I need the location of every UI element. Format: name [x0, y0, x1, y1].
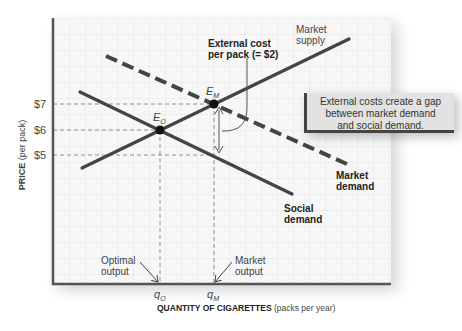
x-axis-label-unit: (packs per year) [272, 303, 336, 313]
social-demand-label: Social demand [284, 203, 322, 225]
callout-line-1: External costs create a gap [307, 96, 454, 108]
x-axis-label: QUANTITY OF CIGARETTES (packs per year) [157, 303, 335, 313]
callout-line-2: between market demand [307, 108, 454, 120]
y-tick-7: $7 [34, 98, 46, 110]
y-tick-5: $5 [34, 149, 46, 161]
external-cost-line1: External cost [208, 38, 278, 49]
market-supply-label-2: supply [296, 35, 327, 46]
y-axis-label-unit: (per pack) [17, 120, 27, 163]
market-output-label-2: output [235, 266, 266, 277]
y-axis-label-bold: PRICE [17, 163, 27, 191]
market-demand-label-1: Market [336, 170, 374, 181]
optimal-output-label-1: Optimal [101, 255, 135, 266]
social-demand-label-2: demand [284, 214, 322, 225]
market-output-label: Market output [235, 255, 266, 277]
optimal-output-label-2: output [101, 266, 135, 277]
optimal-output-label: Optimal output [101, 255, 135, 277]
eq-label-em: EM [206, 86, 219, 101]
market-demand-label-2: demand [336, 181, 374, 192]
callout-line-3: and social demand. [307, 120, 454, 132]
market-supply-label: Market supply [296, 24, 327, 46]
eq-label-eo: EO [153, 112, 166, 127]
market-supply-label-1: Market [296, 24, 327, 35]
market-demand-label: Market demand [336, 170, 374, 192]
social-demand-label-1: Social [284, 203, 322, 214]
market-output-label-1: Market [235, 255, 266, 266]
y-tick-6: $6 [34, 124, 46, 136]
callout-box: External costs create a gap between mark… [304, 93, 454, 133]
x-tick-qo: qO [154, 289, 166, 304]
x-axis-label-bold: QUANTITY OF CIGARETTES [157, 303, 272, 313]
external-cost-line2: per pack (= $2) [208, 49, 278, 60]
y-axis-label: PRICE (per pack) [17, 115, 27, 195]
external-cost-label: External cost per pack (= $2) [208, 38, 278, 60]
x-tick-qm: qM [207, 289, 219, 304]
